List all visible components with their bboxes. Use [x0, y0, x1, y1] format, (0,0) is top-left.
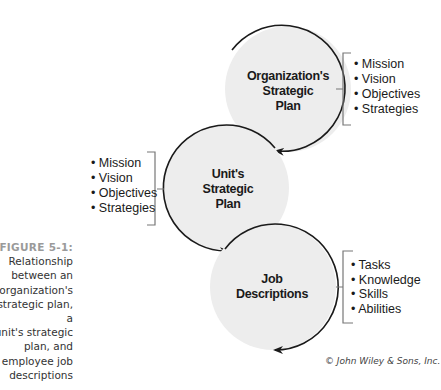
figure-caption: FIGURE 5-1: Relationship between an orga… — [0, 240, 73, 382]
node-label-line: Plan — [275, 99, 300, 113]
node-label-line: Plan — [215, 197, 240, 211]
node-label-line: Descriptions — [236, 287, 308, 301]
node-job-descriptions: Job Descriptions • Tasks • Knowledge • S… — [210, 224, 421, 350]
list-item: • Knowledge — [351, 273, 421, 287]
node-label-line: Job — [261, 272, 283, 286]
caption-line: organization's — [0, 283, 73, 297]
caption-line: unit's strategic — [0, 325, 73, 339]
list-item: • Mission — [91, 156, 141, 170]
caption-line: Relationship — [0, 254, 73, 268]
list-item: • Mission — [354, 57, 404, 71]
caption-line: strategic plan, a — [0, 297, 73, 325]
node-label-line: Strategic — [203, 182, 254, 196]
caption-line: between an — [0, 268, 73, 282]
node-label-line: Organization's — [247, 69, 329, 83]
caption-line: plan, and — [0, 339, 73, 353]
caption-line: employee job — [0, 354, 73, 368]
node-label-line: Strategic — [263, 84, 314, 98]
list-item: • Strategies — [91, 201, 155, 215]
list-item: • Vision — [91, 171, 133, 185]
list-item: • Objectives — [354, 87, 420, 101]
figure-label: FIGURE 5-1: — [0, 240, 73, 254]
list-item: • Vision — [354, 72, 396, 86]
list-item: • Objectives — [91, 186, 157, 200]
list-item: • Skills — [351, 287, 388, 301]
node-label-line: Unit's — [212, 167, 245, 181]
list-item: • Abilities — [351, 302, 401, 316]
copyright-credit: © John Wiley & Sons, Inc. — [325, 356, 440, 366]
list-item: • Strategies — [354, 102, 418, 116]
caption-line: descriptions — [0, 368, 73, 382]
list-item: • Tasks — [351, 258, 391, 272]
